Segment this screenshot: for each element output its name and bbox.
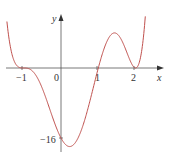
origin-label: 0 xyxy=(54,72,59,83)
y-axis-label: y xyxy=(51,13,57,24)
tick-label-y-neg16: −16 xyxy=(40,134,56,145)
tick-label-x-2: 2 xyxy=(131,72,136,83)
tick-label-x-neg1: −1 xyxy=(16,72,27,83)
function-curve xyxy=(7,16,145,146)
chart-canvas: y x −1 0 1 2 −16 xyxy=(0,0,171,157)
x-axis-label: x xyxy=(156,72,162,83)
x-axis-arrow-icon xyxy=(157,66,164,71)
tick-label-x-1: 1 xyxy=(95,72,100,83)
y-axis-arrow-icon xyxy=(59,14,64,21)
